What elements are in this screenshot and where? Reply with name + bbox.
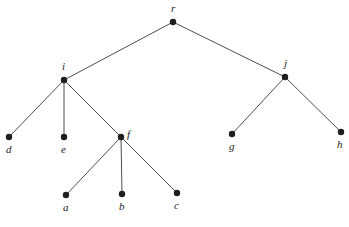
node-label-f: f bbox=[127, 128, 132, 140]
node-i bbox=[61, 77, 67, 83]
node-e bbox=[61, 134, 67, 140]
node-label-h: h bbox=[337, 138, 343, 150]
edge-f-c bbox=[121, 137, 177, 193]
node-label-b: b bbox=[119, 200, 125, 212]
node-r bbox=[170, 19, 176, 25]
node-f bbox=[118, 134, 124, 140]
node-g bbox=[229, 131, 235, 137]
node-a bbox=[63, 192, 69, 198]
edge-j-h bbox=[285, 77, 341, 132]
node-j bbox=[282, 74, 288, 80]
tree-diagram: rijdefghabc bbox=[0, 0, 349, 227]
node-label-g: g bbox=[229, 140, 235, 152]
node-label-i: i bbox=[62, 60, 65, 72]
node-label-c: c bbox=[174, 199, 179, 211]
edge-j-g bbox=[232, 77, 285, 134]
node-label-j: j bbox=[282, 57, 287, 69]
edge-r-i bbox=[64, 22, 173, 80]
nodes-group bbox=[6, 19, 344, 198]
edge-i-d bbox=[9, 80, 64, 137]
tree-graph: rijdefghabc bbox=[0, 0, 349, 227]
node-label-e: e bbox=[61, 143, 66, 155]
edges-group bbox=[9, 22, 341, 195]
node-c bbox=[174, 190, 180, 196]
node-label-d: d bbox=[6, 143, 12, 155]
node-label-a: a bbox=[63, 201, 69, 213]
node-d bbox=[6, 134, 12, 140]
node-label-r: r bbox=[171, 2, 176, 14]
edge-r-j bbox=[173, 22, 285, 77]
node-b bbox=[119, 191, 125, 197]
labels-group: rijdefghabc bbox=[6, 2, 343, 213]
edge-i-f bbox=[64, 80, 121, 137]
edge-f-b bbox=[121, 137, 122, 194]
edge-f-a bbox=[66, 137, 121, 195]
node-h bbox=[338, 129, 344, 135]
